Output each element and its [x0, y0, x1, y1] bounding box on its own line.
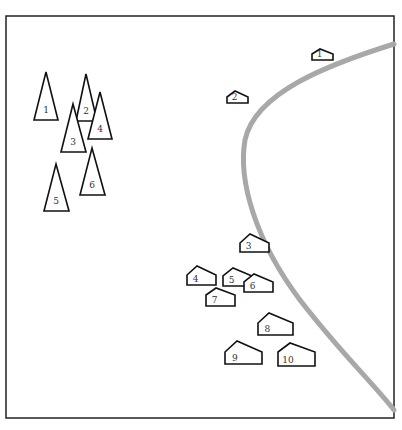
diagram-frame [6, 16, 394, 418]
house-label: 5 [229, 275, 235, 285]
triangle-label: 2 [83, 106, 89, 116]
house-label: 8 [265, 324, 271, 334]
triangle-label: 6 [89, 180, 95, 190]
house-label: 4 [193, 274, 199, 284]
house-label: 6 [250, 281, 256, 291]
triangle-label: 3 [70, 137, 76, 147]
house-label: 1 [317, 49, 323, 59]
house-label: 10 [282, 355, 294, 365]
triangle-label: 5 [53, 196, 59, 206]
house-label: 2 [232, 92, 238, 102]
triangle-label: 4 [97, 124, 103, 134]
house-label: 3 [246, 241, 252, 251]
triangle-label: 1 [43, 105, 49, 115]
house-label: 7 [212, 295, 218, 305]
diagram-canvas: 123456 12345678910 [0, 0, 402, 430]
house-label: 9 [232, 353, 238, 363]
